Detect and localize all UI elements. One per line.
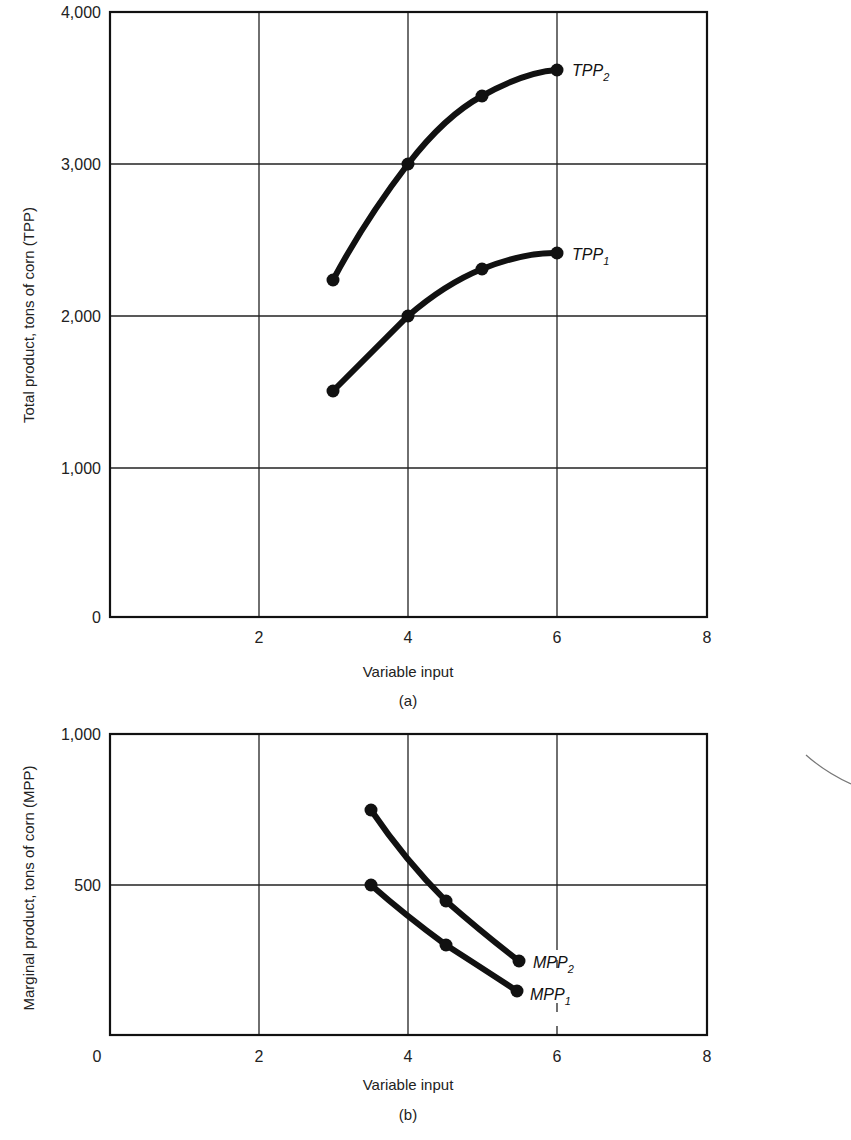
panel-b-ytick-500: 500: [74, 877, 101, 894]
tpp1-points: [327, 247, 564, 398]
panel-b-xaxis-label: Variable input: [363, 1076, 454, 1093]
panel-a-caption: (a): [399, 692, 417, 709]
panel-a-ytick-3000: 3,000: [61, 156, 101, 173]
panel-a-ytick-2000: 2,000: [61, 308, 101, 325]
panel-a-ytick-4000: 4,000: [61, 4, 101, 21]
panel-b-ytick-1000: 1,000: [61, 726, 101, 743]
panel-b-yaxis-label: Marginal product, tons of corn (MPP): [20, 765, 37, 1010]
tpp1-curve: [333, 253, 557, 391]
panel-b-xtick-8: 8: [703, 1048, 712, 1065]
panel-b-caption: (b): [399, 1106, 417, 1123]
panel-a-xaxis-label: Variable input: [363, 663, 454, 680]
panel-b: 1,000 500 0 2 4 6 8 Variable input (b) M…: [20, 726, 712, 1123]
mpp1-label: MPP1: [530, 986, 571, 1007]
panel-a-ytick-1000: 1,000: [61, 460, 101, 477]
figure: 4,000 3,000 2,000 1,000 0 2 4 6 8 Variab…: [0, 0, 851, 1140]
panel-b-grid: [110, 734, 707, 1035]
panel-b-xtick-4: 4: [404, 1048, 413, 1065]
panel-a-xtick-2: 2: [255, 629, 264, 646]
panel-b-xtick-6: 6: [553, 1048, 562, 1065]
panel-a-xtick-6: 6: [553, 629, 562, 646]
panel-a-ytick-0: 0: [92, 609, 101, 626]
tpp2-label: TPP2: [572, 62, 609, 83]
mpp2-label: MPP2: [533, 954, 574, 975]
panel-a-xtick-8: 8: [703, 629, 712, 646]
panel-a: 4,000 3,000 2,000 1,000 0 2 4 6 8 Variab…: [20, 4, 712, 709]
tpp2-curve: [333, 70, 557, 280]
tpp1-label: TPP1: [572, 246, 609, 267]
scan-mark: [806, 755, 851, 784]
panel-a-xtick-4: 4: [404, 629, 413, 646]
panel-a-yaxis-label: Total product, tons of corn (TPP): [20, 207, 37, 423]
panel-b-xtick-2: 2: [255, 1048, 264, 1065]
panel-b-ytick-0: 0: [93, 1048, 102, 1065]
